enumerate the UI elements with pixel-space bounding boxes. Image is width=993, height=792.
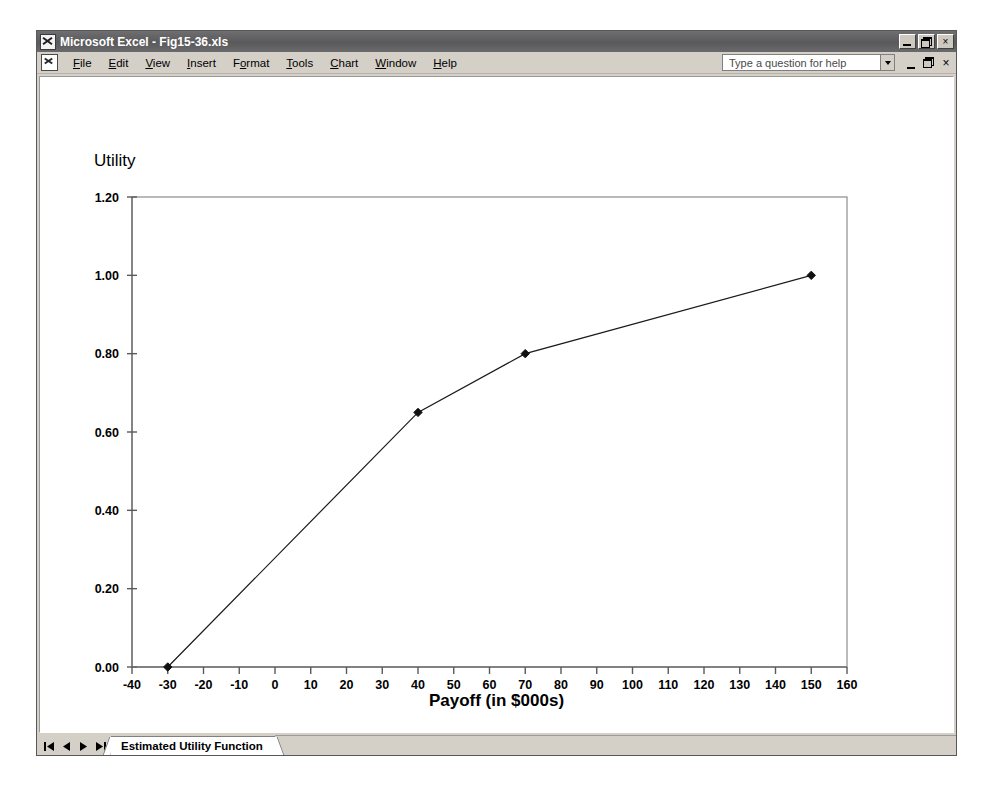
- x-axis-tick-label: 150: [801, 678, 822, 692]
- x-axis-tick-label: -20: [194, 678, 212, 692]
- y-axis-tick-label: 0.20: [95, 582, 119, 596]
- x-axis-tick-label: 160: [837, 678, 858, 692]
- x-axis-tick-label: 110: [658, 678, 678, 692]
- y-axis-tick-label: 1.20: [95, 191, 119, 205]
- document-close-button[interactable]: ×: [938, 55, 954, 71]
- title-bar: Microsoft Excel - Fig15-36.xls ×: [37, 31, 956, 52]
- sheet-tab-filler: [275, 735, 956, 755]
- menu-item-insert[interactable]: Insert: [179, 55, 225, 71]
- data-point-marker[interactable]: [807, 271, 815, 279]
- restore-button[interactable]: [918, 34, 935, 49]
- document-minimize-button[interactable]: [904, 55, 920, 71]
- x-axis-tick-label: 140: [765, 678, 786, 692]
- x-axis-tick-label: 40: [411, 678, 425, 692]
- menu-item-format[interactable]: Format: [225, 55, 278, 71]
- chevron-down-icon: [885, 61, 891, 65]
- x-axis-tick-label: -40: [123, 678, 141, 692]
- x-axis-tick-label: 60: [483, 678, 497, 692]
- y-axis-tick-label: 0.60: [95, 426, 119, 440]
- window-controls: ×: [899, 34, 954, 49]
- previous-sheet-button[interactable]: [58, 738, 75, 754]
- y-axis-tick-label: 0.00: [95, 661, 119, 675]
- next-sheet-icon: [79, 742, 88, 751]
- sheet-nav-buttons: [39, 737, 111, 755]
- x-axis-tick-label: -10: [230, 678, 248, 692]
- x-axis-tick-label: 50: [447, 678, 461, 692]
- first-sheet-button[interactable]: [41, 738, 58, 754]
- restore-icon: [921, 55, 937, 71]
- x-axis-tick-label: 10: [304, 678, 318, 692]
- help-question-input[interactable]: Type a question for help: [722, 54, 880, 71]
- sheet-tab-label: Estimated Utility Function: [121, 740, 263, 752]
- menu-item-edit[interactable]: Edit: [101, 55, 138, 71]
- previous-sheet-icon: [62, 742, 71, 751]
- x-axis-tick-label: 20: [340, 678, 354, 692]
- menu-item-window[interactable]: Window: [367, 55, 425, 71]
- x-axis-tick-label: 100: [622, 678, 643, 692]
- x-axis-tick-label: 70: [518, 678, 532, 692]
- first-sheet-icon: [44, 742, 55, 751]
- plot-area: 0.000.200.400.600.801.001.20-40-30-20-10…: [95, 191, 858, 693]
- x-axis-tick-label: 80: [554, 678, 568, 692]
- menu-item-view[interactable]: View: [137, 55, 179, 71]
- close-icon: ×: [938, 55, 954, 71]
- x-axis-title: Payoff (in $000s): [40, 691, 953, 711]
- sheet-tabs: Estimated Utility Function: [111, 736, 275, 755]
- x-axis-tick-label: 30: [375, 678, 389, 692]
- x-axis-tick-label: 0: [272, 678, 279, 692]
- chart-client-area: Utility 0.000.200.400.600.801.001.20-40-…: [39, 76, 954, 733]
- sheet-tab-bar: Estimated Utility Function: [37, 735, 956, 755]
- window-title: Microsoft Excel - Fig15-36.xls: [60, 35, 899, 49]
- chart-series[interactable]: [164, 271, 816, 671]
- sheet-tab-estimated-utility-function[interactable]: Estimated Utility Function: [111, 736, 275, 755]
- y-axis-tick-label: 1.00: [95, 269, 119, 283]
- minimize-icon: [900, 35, 915, 48]
- x-axis-tick-label: 90: [590, 678, 604, 692]
- minimize-button[interactable]: [899, 34, 916, 49]
- x-axis-tick-label: 120: [694, 678, 715, 692]
- restore-icon: [919, 35, 934, 48]
- menu-item-chart[interactable]: Chart: [322, 55, 367, 71]
- data-point-marker[interactable]: [521, 349, 529, 357]
- minimize-icon: [904, 55, 920, 71]
- chart-plot: 0.000.200.400.600.801.001.20-40-30-20-10…: [40, 77, 954, 733]
- y-axis-tick-label: 0.80: [95, 347, 119, 361]
- excel-icon: [40, 34, 56, 50]
- menu-item-tools[interactable]: Tools: [278, 55, 322, 71]
- x-axis-tick-label: 130: [729, 678, 750, 692]
- menu-item-file[interactable]: File: [65, 55, 101, 71]
- help-dropdown-button[interactable]: [880, 54, 895, 71]
- document-icon[interactable]: [41, 54, 58, 71]
- close-icon: ×: [938, 35, 953, 48]
- document-restore-button[interactable]: [921, 55, 937, 71]
- excel-application-window: Microsoft Excel - Fig15-36.xls × File Ed…: [36, 30, 957, 756]
- close-button[interactable]: ×: [937, 34, 954, 49]
- chart-object[interactable]: Utility 0.000.200.400.600.801.001.20-40-…: [40, 77, 953, 732]
- next-sheet-button[interactable]: [75, 738, 92, 754]
- menu-item-help[interactable]: Help: [425, 55, 466, 71]
- x-axis-tick-label: -30: [159, 678, 177, 692]
- y-axis-tick-label: 0.40: [95, 504, 119, 518]
- menu-bar: File Edit View Insert Format Tools Chart…: [37, 52, 956, 74]
- x-axis: -40-30-20-100102030405060708090100110120…: [123, 667, 858, 692]
- y-axis: 0.000.200.400.600.801.001.20: [95, 191, 137, 675]
